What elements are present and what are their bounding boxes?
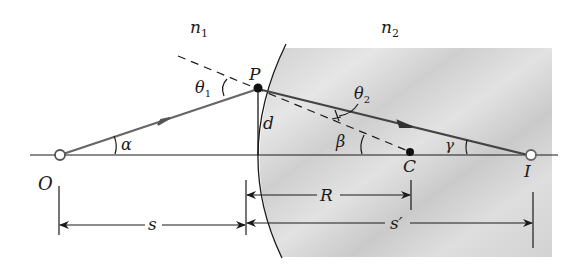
diagram-canvas: n1 n2 P O C I θ1 θ2 α β γ d s R s′ bbox=[0, 0, 584, 269]
dim-sprime-label: s′ bbox=[390, 213, 403, 233]
object-o-marker bbox=[55, 150, 65, 160]
incident-ray-arrow-icon bbox=[158, 118, 170, 125]
point-o-label: O bbox=[38, 173, 53, 194]
point-p-marker bbox=[254, 84, 263, 93]
medium-n2-label: n2 bbox=[381, 17, 399, 40]
point-p-label: P bbox=[248, 64, 261, 84]
medium-n2-region bbox=[259, 48, 552, 257]
height-d-label: d bbox=[263, 113, 274, 133]
theta1-label: θ1 bbox=[195, 78, 211, 99]
image-i-marker bbox=[526, 150, 536, 160]
theta1-arc bbox=[223, 79, 227, 96]
point-i-label: I bbox=[523, 161, 531, 181]
gamma-label: γ bbox=[445, 136, 454, 154]
point-c-label: C bbox=[403, 156, 416, 176]
alpha-label: α bbox=[121, 135, 132, 154]
refraction-diagram: n1 n2 P O C I θ1 θ2 α β γ d s R s′ bbox=[0, 0, 584, 269]
dim-r-label: R bbox=[319, 185, 333, 205]
medium-n1-label: n1 bbox=[190, 17, 208, 40]
point-c-marker bbox=[406, 148, 414, 156]
dim-s-label: s bbox=[148, 214, 157, 234]
beta-label: β bbox=[335, 132, 345, 151]
alpha-arc bbox=[114, 136, 116, 154]
